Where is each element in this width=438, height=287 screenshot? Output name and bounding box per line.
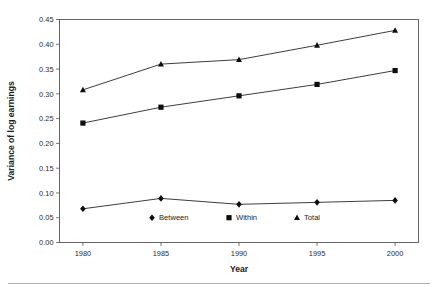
data-point-square — [80, 120, 85, 125]
x-tick-label: 1985 — [153, 249, 169, 258]
y-tick-label: 0.35 — [39, 65, 53, 74]
data-point-square — [314, 82, 319, 87]
legend-label-between: Between — [159, 213, 189, 222]
data-point-square — [236, 93, 241, 98]
x-tick-label: 2000 — [387, 249, 403, 258]
chart-figure: 0.000.050.100.150.200.250.300.350.400.45… — [0, 0, 438, 287]
y-tick-label: 0.25 — [39, 114, 53, 123]
x-axis: 19801985199019952000 — [75, 243, 404, 258]
legend-label-within: Within — [236, 213, 257, 222]
y-tick-label: 0.00 — [39, 238, 53, 247]
y-tick-label: 0.15 — [39, 164, 53, 173]
y-tick-label: 0.10 — [39, 189, 53, 198]
y-tick-label: 0.05 — [39, 213, 53, 222]
y-tick-label: 0.20 — [39, 139, 53, 148]
y-tick-label: 0.45 — [39, 15, 53, 24]
legend-label-total: Total — [304, 213, 320, 222]
data-point-square — [226, 215, 231, 220]
x-tick-label: 1990 — [231, 249, 247, 258]
x-tick-label: 1980 — [75, 249, 91, 258]
y-tick-label: 0.40 — [39, 40, 53, 49]
y-tick-label: 0.30 — [39, 90, 53, 99]
plot-area-frame — [60, 20, 419, 243]
line-chart: 0.000.050.100.150.200.250.300.350.400.45… — [0, 0, 438, 287]
y-axis-title: Variance of log earnings — [6, 81, 16, 181]
x-tick-label: 1995 — [309, 249, 325, 258]
data-point-square — [158, 105, 163, 110]
y-axis: 0.000.050.100.150.200.250.300.350.400.45 — [39, 15, 59, 247]
data-point-square — [392, 68, 397, 73]
x-axis-title: Year — [230, 264, 249, 274]
